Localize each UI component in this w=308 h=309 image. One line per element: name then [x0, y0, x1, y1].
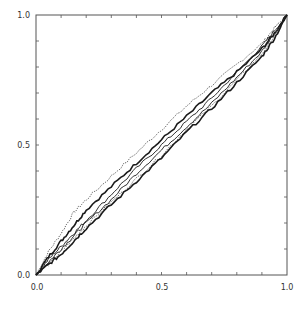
y-tick-label-bottom: 0.0 — [17, 271, 30, 280]
pp-plot-chart: 1.0 0.5 0.0 0.0 0.5 1.0 — [0, 0, 308, 309]
y-tick-label-mid: 0.5 — [17, 141, 30, 150]
x-tick-label-left: 0.0 — [31, 283, 44, 292]
y-tick-label-top: 1.0 — [17, 11, 30, 20]
x-tick-label-mid: 0.5 — [156, 283, 169, 292]
x-tick-label-right: 1.0 — [281, 283, 294, 292]
data-curves — [36, 15, 287, 275]
